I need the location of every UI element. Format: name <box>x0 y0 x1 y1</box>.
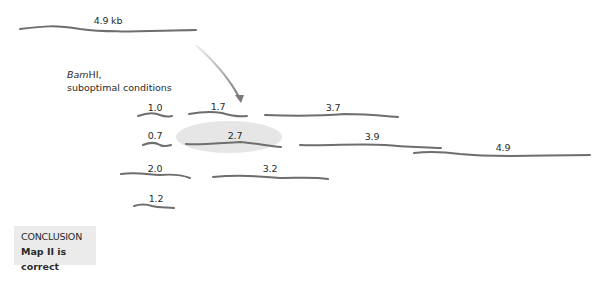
label-uncut: 4.9 kb <box>94 15 122 26</box>
label-fragment: 1.7 <box>211 101 226 112</box>
dna-uncut <box>20 26 196 31</box>
enzyme-name-rest: HI, <box>89 69 102 80</box>
label-fragment: 3.9 <box>365 131 380 142</box>
label-fragment: 4.9 <box>496 142 511 153</box>
digest-arrow <box>196 45 239 97</box>
dna-fragment-0.7 <box>143 143 171 146</box>
dna-fragment-3.9 <box>300 144 441 148</box>
dna-fragment-1.7 <box>189 112 247 116</box>
enzyme-name-italic: Bam <box>67 69 89 80</box>
conclusion-title: CONCLUSION <box>21 229 96 244</box>
label-fragment: 2.7 <box>228 130 243 141</box>
enzyme-condition: suboptimal conditions <box>67 82 172 93</box>
label-fragment: 1.0 <box>148 102 163 113</box>
conclusion-text: Map II is correct <box>21 244 96 274</box>
label-fragment: 3.7 <box>326 102 341 113</box>
dna-fragment-3.7 <box>265 114 398 117</box>
arrow-head-icon <box>235 95 244 103</box>
dna-fragment-1.0 <box>138 113 172 116</box>
label-fragment: 3.2 <box>263 163 278 174</box>
dna-fragment-1.2 <box>134 205 174 209</box>
dna-fragment-3.2 <box>213 176 328 179</box>
label-fragment: 1.2 <box>149 193 164 204</box>
enzyme-label: BamHI, suboptimal conditions <box>67 68 172 94</box>
label-fragment: 0.7 <box>148 130 163 141</box>
label-fragment: 2.0 <box>148 163 163 174</box>
conclusion-box: CONCLUSION Map II is correct <box>14 226 96 265</box>
